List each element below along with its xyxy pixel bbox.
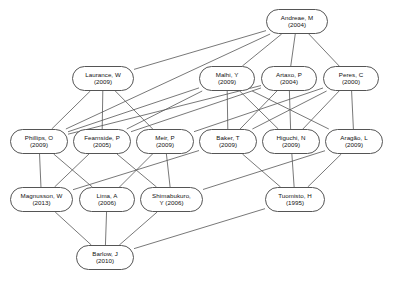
node-year: (2009) bbox=[30, 142, 48, 149]
node-year: (2005) bbox=[93, 142, 111, 149]
node-year: (2004) bbox=[288, 22, 306, 29]
node-peres[interactable]: Peres, C(2000) bbox=[323, 66, 379, 91]
citation-network-diagram: Andreae, M(2004)Laurance, W(2009)Malhi, … bbox=[0, 0, 395, 281]
node-meir[interactable]: Meir, P(2009) bbox=[136, 129, 194, 154]
node-aragao[interactable]: Aragão, L(2009) bbox=[325, 129, 383, 154]
node-year: (2004) bbox=[280, 79, 298, 86]
node-higuchi[interactable]: Higuchi, N(2009) bbox=[262, 129, 320, 154]
node-phillips[interactable]: Phillips, O(2009) bbox=[10, 129, 68, 154]
node-andreae[interactable]: Andreae, M(2004) bbox=[266, 9, 328, 34]
node-year: (1995) bbox=[286, 200, 304, 207]
node-layer: Andreae, M(2004)Laurance, W(2009)Malhi, … bbox=[0, 0, 395, 281]
node-year: (2009) bbox=[345, 142, 363, 149]
node-year: (2000) bbox=[342, 79, 360, 86]
node-year: (2009) bbox=[219, 142, 237, 149]
node-magnusson[interactable]: Magnusson, W(2013) bbox=[10, 187, 73, 212]
node-year: (2010) bbox=[96, 258, 114, 265]
node-year: (2009) bbox=[94, 79, 112, 86]
node-baker[interactable]: Baker, T(2009) bbox=[199, 129, 257, 154]
node-shimabukuro[interactable]: Shimabukuro,Y (2006) bbox=[140, 187, 203, 212]
node-year: (2009) bbox=[218, 79, 236, 86]
node-malhi[interactable]: Malhi, Y(2009) bbox=[199, 66, 255, 91]
node-artaxo[interactable]: Artaxo, P(2004) bbox=[261, 66, 317, 91]
node-year: (2006) bbox=[98, 200, 116, 207]
node-year: Y (2006) bbox=[159, 200, 183, 207]
node-year: (2009) bbox=[156, 142, 174, 149]
node-tuomisto[interactable]: Tuomisto, H(1995) bbox=[265, 187, 325, 212]
node-year: (2009) bbox=[282, 142, 300, 149]
node-lima[interactable]: Lima, A(2006) bbox=[79, 187, 135, 212]
node-barlow[interactable]: Barlow, J(2010) bbox=[76, 245, 134, 270]
node-year: (2013) bbox=[32, 200, 50, 207]
node-fearnside[interactable]: Fearnside, P(2005) bbox=[73, 129, 131, 154]
node-laurance[interactable]: Laurance, W(2009) bbox=[72, 66, 134, 91]
